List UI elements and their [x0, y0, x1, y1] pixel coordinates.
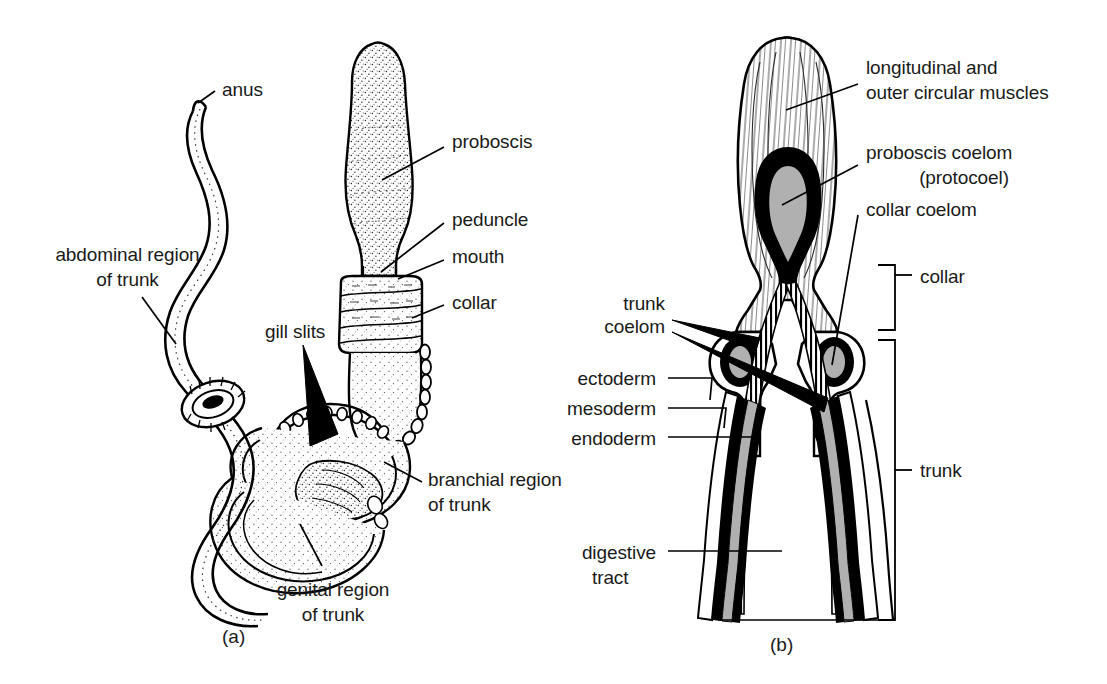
figure-root: anus abdominal region of trunk proboscis…: [0, 0, 1107, 684]
label-trunk-coelom-line2: coelom: [500, 315, 665, 339]
leader-mouth: [398, 260, 444, 279]
leader-gill-slits: [303, 345, 338, 446]
trunk-left-wall: [698, 392, 766, 623]
trunk-right-wall: [810, 392, 878, 623]
label-endoderm: endoderm: [500, 427, 656, 451]
label-trunk-bracket: trunk: [920, 459, 962, 483]
leader-ectoderm: [668, 378, 712, 400]
label-mouth: mouth: [452, 245, 504, 269]
panel-b-artwork: [668, 37, 912, 623]
label-branchial-region-line1: branchial region: [428, 468, 562, 492]
label-collar-bracket: collar: [920, 265, 965, 289]
label-proboscis: proboscis: [452, 130, 532, 154]
label-ectoderm: ectoderm: [500, 367, 656, 391]
label-abdominal-region-line2: of trunk: [40, 268, 215, 292]
label-genital-region-line2: of trunk: [248, 603, 418, 627]
leader-mesoderm: [668, 408, 726, 428]
label-mesoderm: mesoderm: [500, 397, 656, 421]
label-anus: anus: [222, 78, 263, 102]
leader-anus: [198, 91, 215, 103]
label-muscles-line2: outer circular muscles: [866, 81, 1049, 105]
label-muscles-line1: longitudinal and: [866, 56, 998, 80]
label-digestive-tract-line1: digestive: [500, 541, 656, 565]
label-collar-coelom: collar coelom: [866, 198, 977, 222]
bracket-collar: [878, 265, 912, 330]
label-abdominal-region-line1: abdominal region: [40, 243, 215, 267]
leader-abdominal: [142, 297, 176, 344]
collar-shape: [339, 276, 422, 353]
label-branchial-region-line2: of trunk: [428, 493, 491, 517]
caption-panel-a: (a): [222, 626, 245, 648]
proboscis-shape: [345, 43, 412, 277]
label-gill-slits: gill slits: [265, 320, 325, 344]
label-trunk-coelom-line1: trunk: [500, 292, 665, 316]
label-proboscis-coelom-line2: (protocoel): [866, 166, 1062, 190]
bracket-trunk: [878, 340, 912, 620]
label-collar: collar: [452, 291, 497, 315]
label-genital-region-line1: genital region: [248, 578, 418, 602]
label-proboscis-coelom-line1: proboscis coelom: [866, 141, 1012, 165]
label-digestive-tract-line2: tract: [592, 566, 628, 590]
caption-panel-b: (b): [770, 634, 793, 656]
label-peduncle: peduncle: [452, 208, 528, 232]
